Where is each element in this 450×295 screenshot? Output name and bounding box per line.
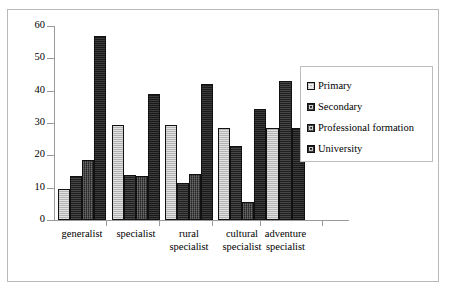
x-axis-category-label-line: adventure xyxy=(250,228,322,241)
legend-item-university: University xyxy=(307,138,432,159)
bar-adventure-specialist-primary xyxy=(266,128,279,220)
bar-specialist-primary xyxy=(112,125,124,220)
y-axis-tick-label: 40 xyxy=(1,85,45,95)
legend-label: Professional formation xyxy=(318,122,414,133)
y-axis-tick-label: 30 xyxy=(1,117,45,127)
y-axis-tick xyxy=(47,26,54,27)
bar-rural-specialist-professional-formation xyxy=(189,174,201,220)
plot-area xyxy=(54,26,292,220)
legend-item-secondary: Secondary xyxy=(307,96,432,117)
bar-rural-specialist-secondary xyxy=(177,183,189,220)
y-axis-tick-label: 60 xyxy=(1,20,45,30)
legend-item-professional-formation: Professional formation xyxy=(307,117,432,138)
y-axis-tick xyxy=(47,58,54,59)
x-axis-category-label-line: specialist xyxy=(250,241,322,254)
y-axis-tick xyxy=(47,123,54,124)
y-axis-tick-label: 50 xyxy=(1,52,45,62)
y-axis-tick xyxy=(47,91,54,92)
bar-generalist-professional-formation xyxy=(82,160,94,220)
bar-cultural-specialist-primary xyxy=(218,128,230,220)
bar-specialist-university xyxy=(148,94,160,220)
bar-rural-specialist-university xyxy=(201,84,213,220)
bar-cultural-specialist-professional-formation xyxy=(242,202,254,220)
legend-swatch-primary xyxy=(307,82,315,90)
legend: PrimarySecondaryProfessional formationUn… xyxy=(300,66,433,162)
legend-swatch-university xyxy=(307,145,315,153)
bar-adventure-specialist-secondary xyxy=(279,81,292,220)
y-axis-tick-label: 0 xyxy=(1,214,45,224)
legend-label: University xyxy=(318,143,362,154)
bar-specialist-professional-formation xyxy=(136,176,148,220)
x-axis-tick xyxy=(260,221,261,226)
bar-generalist-primary xyxy=(58,189,70,220)
bar-generalist-secondary xyxy=(70,176,82,220)
bar-generalist-university xyxy=(94,36,106,220)
bar-cultural-specialist-university xyxy=(254,109,266,220)
x-axis-tick xyxy=(212,221,213,226)
bar-rural-specialist-primary xyxy=(165,125,177,220)
legend-swatch-professional-formation xyxy=(307,124,315,132)
legend-label: Secondary xyxy=(318,101,362,112)
x-axis-category-label: adventurespecialist xyxy=(250,228,322,253)
y-axis-tick xyxy=(47,188,54,189)
legend-swatch-secondary xyxy=(307,103,315,111)
y-axis-tick-label: 10 xyxy=(1,182,45,192)
x-axis-line xyxy=(54,220,349,221)
bar-cultural-specialist-secondary xyxy=(230,146,242,220)
legend-item-primary: Primary xyxy=(307,75,432,96)
y-axis-tick-label: 20 xyxy=(1,149,45,159)
bar-specialist-secondary xyxy=(124,175,136,220)
chart-figure: 6050403020100 generalistspecialistrurals… xyxy=(0,0,450,295)
x-axis-tick xyxy=(106,221,107,226)
x-axis-tick xyxy=(322,221,323,226)
y-axis-tick xyxy=(47,220,54,221)
y-axis-tick-labels: 6050403020100 xyxy=(0,0,45,295)
y-axis-tick xyxy=(47,155,54,156)
x-axis-tick xyxy=(159,221,160,226)
legend-label: Primary xyxy=(318,80,352,91)
